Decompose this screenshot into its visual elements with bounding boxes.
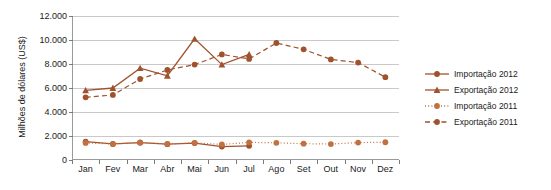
- legend-swatch-triangle-icon: [424, 83, 450, 97]
- x-tick-label: Out: [324, 164, 339, 174]
- data-point-marker: [83, 94, 89, 100]
- x-tick-label: Nov: [350, 164, 366, 174]
- data-point-marker: [246, 139, 252, 145]
- x-tick-label: Jan: [78, 164, 93, 174]
- data-point-marker: [137, 76, 143, 82]
- chart-container: Milhões de dólares (US$) 02.0004.0006.00…: [0, 0, 551, 190]
- data-point-marker: [110, 92, 116, 98]
- x-tick-label: Mai: [187, 164, 202, 174]
- x-tick-label: Set: [297, 164, 311, 174]
- series-exporta-o-2012: [82, 35, 252, 93]
- data-point-marker: [328, 141, 334, 147]
- x-tick-mark: [181, 160, 182, 164]
- legend-swatch-circle-icon: [424, 99, 450, 113]
- x-tick-mark: [290, 160, 291, 164]
- x-tick-mark: [317, 160, 318, 164]
- x-tick-mark: [127, 160, 128, 164]
- data-point-marker: [191, 35, 198, 41]
- data-point-marker: [273, 140, 279, 146]
- y-tick-label: 6.000: [44, 83, 67, 93]
- series-layer: [72, 16, 399, 160]
- data-point-marker: [328, 57, 334, 63]
- legend-item-3[interactable]: Importação 2011: [424, 98, 551, 114]
- data-point-marker: [137, 65, 144, 71]
- legend-item-2[interactable]: Exportação 2012: [424, 82, 551, 98]
- data-point-marker: [382, 74, 388, 80]
- legend-item-1[interactable]: Importação 2012: [424, 66, 551, 82]
- y-tick-label: 12.000: [39, 11, 67, 21]
- x-tick-label: Abr: [160, 164, 174, 174]
- legend-swatch-circle-icon: [424, 67, 450, 81]
- y-tick-label: 0: [62, 155, 67, 165]
- series-line: [86, 43, 386, 97]
- x-tick-mark: [154, 160, 155, 164]
- x-tick-mark: [345, 160, 346, 164]
- legend-item-4[interactable]: Exportação 2011: [424, 114, 551, 130]
- legend-label: Importação 2011: [454, 101, 517, 111]
- legend-label: Exportação 2011: [454, 117, 518, 127]
- series-exporta-o-2011: [83, 40, 389, 100]
- series-line: [86, 39, 250, 91]
- x-tick-label: Jul: [243, 164, 255, 174]
- x-tick-mark: [263, 160, 264, 164]
- plot-area: 02.0004.0006.0008.00010.00012.000 JanFev…: [72, 16, 399, 160]
- x-tick-mark: [72, 160, 73, 164]
- data-point-marker: [301, 141, 307, 147]
- y-tick-label: 4.000: [44, 107, 67, 117]
- data-point-marker: [110, 141, 116, 147]
- data-point-marker: [273, 40, 279, 46]
- x-tick-mark: [99, 160, 100, 164]
- data-point-marker: [164, 141, 170, 147]
- x-tick-label: Ago: [268, 164, 284, 174]
- data-point-marker: [219, 142, 225, 148]
- chart-legend: Importação 2012Exportação 2012Importação…: [424, 66, 551, 130]
- series-line: [86, 142, 386, 144]
- data-point-marker: [192, 140, 198, 146]
- x-tick-label: Dez: [377, 164, 393, 174]
- data-point-marker: [301, 46, 307, 52]
- data-point-marker: [355, 140, 361, 146]
- data-point-marker: [164, 67, 170, 73]
- x-tick-label: Jun: [215, 164, 230, 174]
- data-point-marker: [192, 62, 198, 68]
- data-point-marker: [219, 52, 225, 58]
- data-point-marker: [382, 139, 388, 145]
- data-point-marker: [137, 140, 143, 146]
- legend-label: Importação 2012: [454, 69, 518, 79]
- x-tick-label: Fev: [105, 164, 120, 174]
- legend-label: Exportação 2012: [454, 85, 518, 95]
- data-point-marker: [246, 56, 252, 62]
- y-tick-label: 8.000: [44, 59, 67, 69]
- x-tick-mark: [399, 160, 400, 164]
- y-tick-label: 10.000: [39, 35, 67, 45]
- data-point-marker: [83, 140, 89, 146]
- x-tick-label: Mar: [132, 164, 148, 174]
- x-tick-mark: [372, 160, 373, 164]
- data-point-marker: [355, 60, 361, 66]
- x-tick-mark: [208, 160, 209, 164]
- y-tick-label: 2.000: [44, 131, 67, 141]
- legend-swatch-circle-icon: [424, 115, 450, 129]
- x-tick-mark: [236, 160, 237, 164]
- y-axis-title: Milhões de dólares (US$): [17, 12, 27, 162]
